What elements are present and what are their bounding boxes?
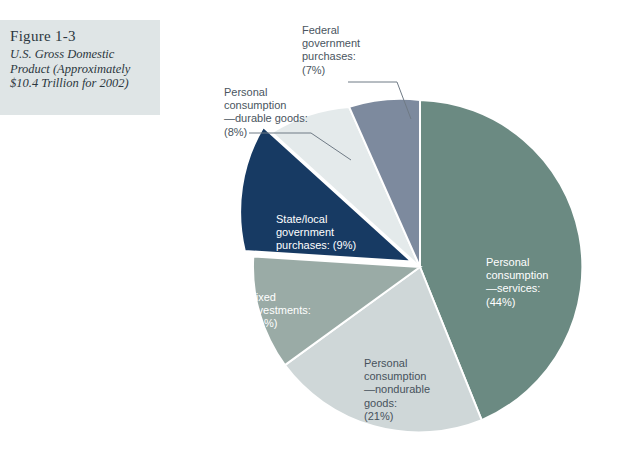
label-services: Personal consumption —services: (44%): [486, 256, 581, 309]
label-fixed-investments: Fixed investments: (11%): [249, 291, 349, 331]
pie-chart: Federal government purchases: (7%) Perso…: [0, 0, 622, 461]
label-state-local-government-purchases: State/local government purchases: (9%): [276, 213, 386, 253]
label-durable-goods: Personal consumption —durable goods: (8%…: [224, 86, 324, 139]
label-federal-government-purchases: Federal government purchases: (7%): [302, 24, 382, 77]
label-nondurable-goods: Personal consumption —nondurable goods: …: [364, 357, 464, 423]
